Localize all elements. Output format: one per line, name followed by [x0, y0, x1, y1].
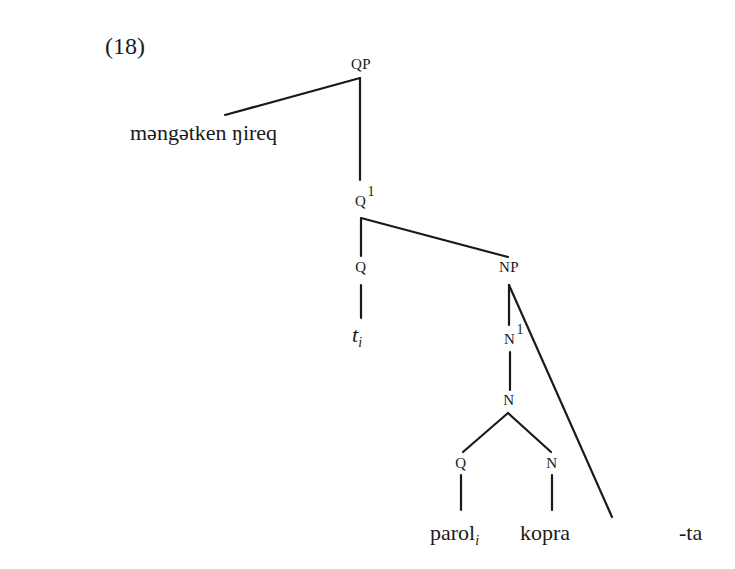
leaf-trace: ti [352, 322, 362, 351]
branch-qp-spec [225, 78, 360, 115]
node-q: Q [355, 259, 366, 276]
leaf-kopra: kopra [520, 520, 570, 546]
branch-n-n [508, 413, 551, 452]
node-np: NP [499, 259, 519, 276]
node-q-low: Q [455, 455, 466, 472]
branch-q1-np [361, 218, 508, 257]
leaf-specifier: məngətken ŋireq [130, 120, 277, 146]
node-n-bar: N1 [504, 326, 524, 348]
node-q-bar: Q1 [355, 188, 375, 210]
node-n: N [503, 392, 514, 409]
tree-branches [0, 0, 735, 569]
leaf-suffix: -ta [679, 520, 702, 546]
node-qp: QP [351, 56, 371, 73]
branch-np-suffix [509, 285, 612, 517]
branch-n-q [463, 413, 508, 452]
node-n-low: N [546, 455, 557, 472]
leaf-parol: paroli [430, 520, 479, 549]
